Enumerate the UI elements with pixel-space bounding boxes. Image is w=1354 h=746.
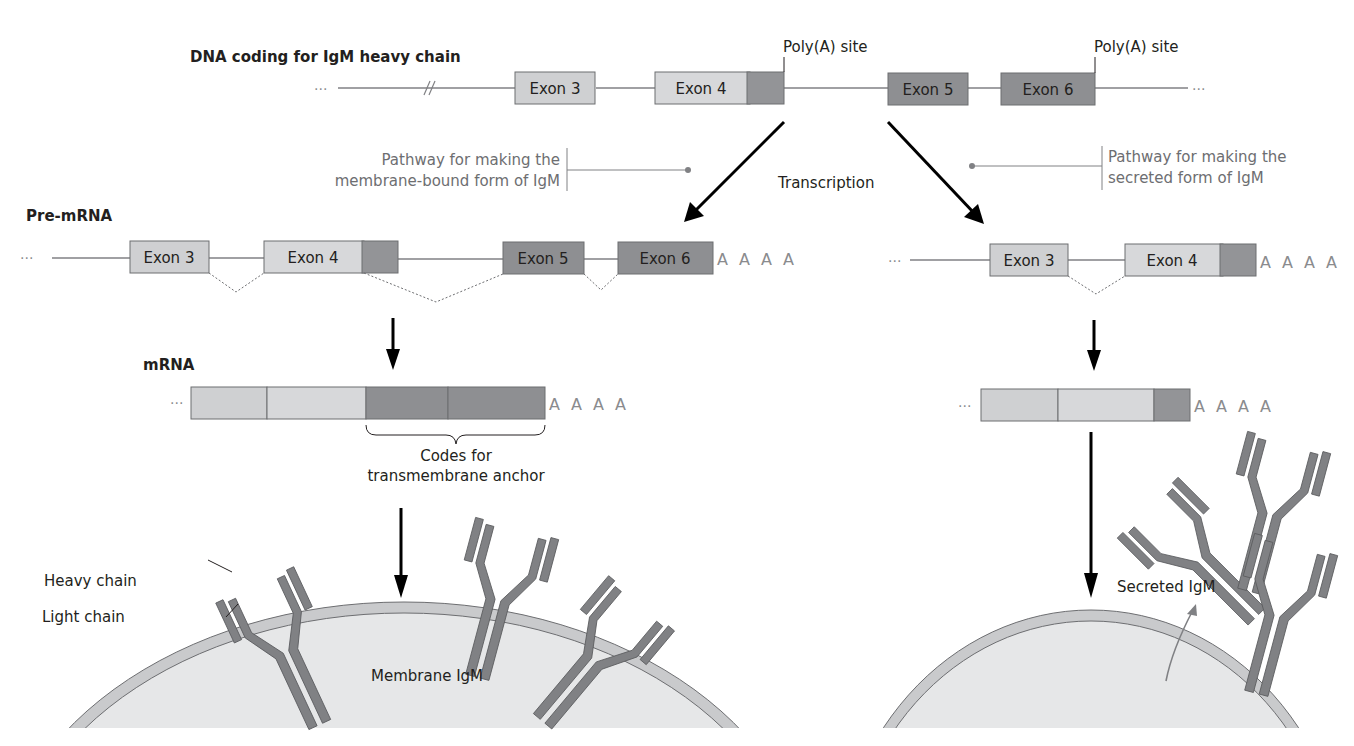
mrna-right-segment-exon3 (981, 389, 1058, 421)
secreted-igm-label: Secreted IgM (1117, 578, 1215, 596)
premrna-left: Pre-mRNA ··· Exon 3 Exon 4 Exon 5 Exon 6… (20, 207, 797, 302)
brace-label-line1: Codes for (420, 447, 492, 465)
svg-text:Exon 5: Exon 5 (518, 250, 569, 268)
svg-text:A A A A: A A A A (549, 395, 629, 414)
svg-text:···: ··· (170, 395, 183, 411)
pathways: Pathway for making the membrane-bound fo… (335, 122, 1287, 224)
svg-text:Exon 6: Exon 6 (1023, 81, 1074, 99)
mrna-right-segment-exon4 (1058, 389, 1154, 421)
polyA-tail: A A A A (717, 250, 797, 269)
svg-text:Exon 5: Exon 5 (903, 81, 954, 99)
premrna-right: ··· Exon 3 Exon 4 A A A A (888, 244, 1340, 294)
brace (366, 425, 545, 444)
dna-exon-4-tm (747, 72, 784, 104)
splice-4-5 (364, 273, 503, 302)
svg-text:Exon 4: Exon 4 (288, 249, 339, 267)
dna-row: DNA coding for IgM heavy chain ··· ··· E… (190, 38, 1205, 105)
mrna-segment-exon6 (448, 387, 545, 419)
pathway-membrane-line1: Pathway for making the (381, 151, 560, 169)
arrow-transcription-left (694, 122, 784, 212)
pathway-membrane-line2: membrane-bound form of IgM (335, 172, 560, 190)
membrane-igm-label: Membrane IgM (371, 667, 483, 685)
dots-left: ··· (314, 81, 327, 97)
mrna-left: mRNA ··· A A A A Codes for transmembrane… (143, 356, 629, 485)
pathway-secreted-line2: secreted form of IgM (1108, 169, 1264, 187)
svg-text:···: ··· (20, 250, 33, 266)
splice-3-4 (209, 273, 264, 292)
premrna-label: Pre-mRNA (26, 207, 113, 225)
mrna-label: mRNA (143, 356, 195, 374)
mrna-right: ··· A A A A (958, 389, 1274, 421)
splice-right-3-4 (1068, 276, 1125, 294)
splice-5-6 (584, 274, 618, 290)
svg-text:Exon 6: Exon 6 (640, 250, 691, 268)
arrow-transcription-right (888, 122, 974, 213)
svg-text:A A A A: A A A A (1194, 397, 1274, 416)
svg-text:Exon 3: Exon 3 (144, 249, 195, 267)
svg-text:Exon 4: Exon 4 (1147, 252, 1198, 270)
mrna-segment-exon5 (366, 387, 448, 419)
svg-text:···: ··· (958, 398, 971, 414)
igm-splicing-diagram: DNA coding for IgM heavy chain ··· ··· E… (0, 0, 1354, 746)
polyA-site-2: Poly(A) site (1094, 38, 1179, 56)
light-chain-label: Light chain (42, 608, 125, 626)
pathway-dot-secreted (969, 163, 975, 169)
heavy-chain-label: Heavy chain (44, 572, 137, 590)
dna-title: DNA coding for IgM heavy chain (190, 48, 461, 66)
brace-label-line2: transmembrane anchor (367, 467, 545, 485)
svg-text:Exon 3: Exon 3 (530, 80, 581, 98)
polyA-tail-right: A A A A (1260, 253, 1340, 272)
mrna-segment-exon4 (267, 387, 366, 419)
transcription-label: Transcription (777, 174, 874, 192)
pathway-secreted-line1: Pathway for making the (1108, 148, 1287, 166)
dots-right: ··· (1192, 81, 1205, 97)
mrna-segment-exon3 (191, 387, 267, 419)
polyA-site-1: Poly(A) site (783, 38, 868, 56)
svg-text:Exon 4: Exon 4 (676, 80, 727, 98)
svg-text:Exon 3: Exon 3 (1004, 252, 1055, 270)
pathway-dot-membrane (685, 167, 691, 173)
svg-text:···: ··· (888, 253, 901, 269)
